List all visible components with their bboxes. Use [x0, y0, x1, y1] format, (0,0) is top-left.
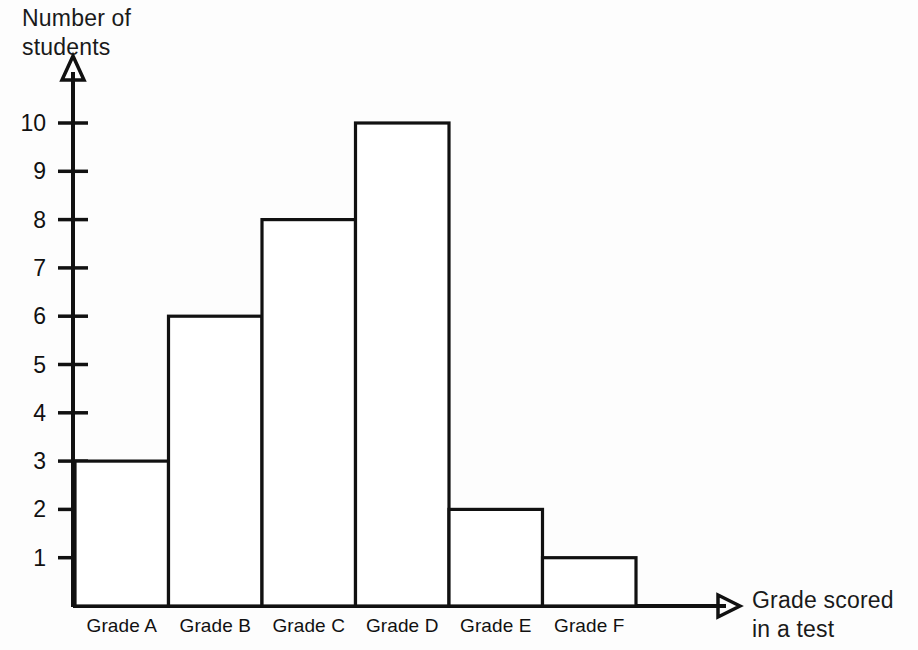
x-axis-category-label: Grade B — [169, 615, 263, 637]
chart-page: Number of students Grade scored in a tes… — [0, 0, 918, 650]
y-axis-tick-label: 1 — [0, 544, 46, 571]
x-axis-category-label: Grade D — [356, 615, 450, 637]
y-axis-tick-label: 7 — [0, 254, 46, 281]
y-axis-tick-label: 9 — [0, 158, 46, 185]
chart-svg — [0, 0, 918, 650]
bar[interactable] — [543, 558, 637, 606]
bar[interactable] — [356, 123, 450, 606]
bar[interactable] — [169, 316, 263, 606]
bar[interactable] — [262, 220, 356, 606]
x-axis-category-label: Grade A — [75, 615, 169, 637]
y-axis-tick-label: 6 — [0, 303, 46, 330]
plot-area: 12345678910 Grade AGrade BGrade CGrade D… — [0, 0, 918, 650]
x-axis-category-label: Grade E — [449, 615, 543, 637]
y-axis-tick-label: 8 — [0, 206, 46, 233]
x-axis-category-label: Grade F — [543, 615, 637, 637]
bar-group — [75, 123, 636, 606]
y-axis-tick-label: 5 — [0, 351, 46, 378]
y-axis-tick-label: 10 — [0, 110, 46, 137]
bar[interactable] — [75, 461, 169, 606]
x-axis-category-label: Grade C — [262, 615, 356, 637]
bar[interactable] — [449, 509, 543, 606]
y-axis-tick-label: 2 — [0, 496, 46, 523]
y-axis-tick-label: 4 — [0, 399, 46, 426]
y-axis-tick-label: 3 — [0, 448, 46, 475]
